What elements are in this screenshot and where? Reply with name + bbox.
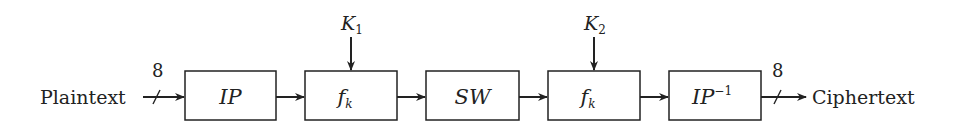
- output-bit-width: 8: [772, 60, 783, 81]
- input-bit-width: 8: [152, 60, 163, 81]
- block-ip: IP: [185, 71, 276, 120]
- output-arrow: [761, 90, 806, 104]
- key-k1-label: K1: [340, 12, 363, 37]
- sdes-diagram: Plaintext 8 IP fk K1 SW: [0, 0, 955, 132]
- block-ipinv-sup: −1: [714, 84, 732, 98]
- block-ipinv-label: IP: [691, 85, 715, 109]
- plaintext-label: Plaintext: [40, 86, 126, 108]
- svg-text:IP: IP: [218, 85, 242, 109]
- key-k2-label: K2: [583, 12, 606, 37]
- input-arrow: [143, 90, 184, 104]
- svg-text:SW: SW: [455, 85, 493, 109]
- block-ip-inverse: IP−1: [669, 71, 761, 120]
- block-sw: SW: [426, 71, 519, 120]
- block-fk1: fk: [305, 71, 397, 120]
- ciphertext-label: Ciphertext: [812, 86, 915, 108]
- block-ip-label: IP: [218, 85, 242, 109]
- block-fk1-sub: k: [345, 97, 352, 111]
- block-sw-label: SW: [455, 85, 493, 109]
- block-fk2-sub: k: [588, 97, 595, 111]
- block-fk2: fk: [548, 71, 640, 120]
